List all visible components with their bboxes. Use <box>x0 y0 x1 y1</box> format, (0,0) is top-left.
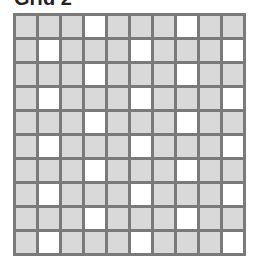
grid-cell-white <box>85 208 105 229</box>
grid-cell-shaded <box>154 112 174 133</box>
grid-cell-white <box>177 16 197 37</box>
grid-cell-white <box>85 16 105 37</box>
grid-cell-shaded <box>200 16 220 37</box>
grid-cell-shaded <box>177 40 197 61</box>
grid-cell-shaded <box>62 184 82 205</box>
grid-cell-white <box>131 40 151 61</box>
grid-cell-shaded <box>131 112 151 133</box>
grid-cell-shaded <box>39 64 59 85</box>
grid-cell-shaded <box>85 88 105 109</box>
grid-cell-shaded <box>108 16 128 37</box>
grid-cell-shaded <box>200 160 220 181</box>
grid-cell-white <box>177 112 197 133</box>
grid-cell-shaded <box>223 16 243 37</box>
grid-cell-shaded <box>39 112 59 133</box>
grid-cell-shaded <box>154 184 174 205</box>
grid-cell-shaded <box>200 40 220 61</box>
grid-cell-shaded <box>223 112 243 133</box>
grid-cell-shaded <box>154 88 174 109</box>
grid-cell-shaded <box>154 16 174 37</box>
grid-cell-white <box>85 112 105 133</box>
grid-cell-shaded <box>16 40 36 61</box>
grid-cell-shaded <box>223 208 243 229</box>
grid-cell-white <box>223 232 243 253</box>
grid-cell-shaded <box>16 112 36 133</box>
grid-cell-shaded <box>177 232 197 253</box>
grid-cell-shaded <box>39 16 59 37</box>
grid-cell-shaded <box>62 40 82 61</box>
grid-cell-shaded <box>62 88 82 109</box>
grid-cell-shaded <box>131 16 151 37</box>
grid-cell-shaded <box>16 184 36 205</box>
grid-title: Grid 2 <box>14 0 72 10</box>
grid-cell-shaded <box>200 184 220 205</box>
grid-cell-shaded <box>62 64 82 85</box>
grid-cell-shaded <box>131 208 151 229</box>
grid-cell-shaded <box>108 184 128 205</box>
grid-cell-shaded <box>16 88 36 109</box>
grid-cell-shaded <box>154 64 174 85</box>
grid-cell-shaded <box>131 160 151 181</box>
grid-cell-white <box>223 88 243 109</box>
grid-cell-shaded <box>85 40 105 61</box>
grid-cell-shaded <box>108 208 128 229</box>
grid-cell-shaded <box>62 208 82 229</box>
grid-cell-shaded <box>177 136 197 157</box>
grid-cell-white <box>39 232 59 253</box>
grid-cell-shaded <box>223 160 243 181</box>
grid-cell-shaded <box>131 64 151 85</box>
grid-cell-white <box>223 184 243 205</box>
grid-cell-shaded <box>62 16 82 37</box>
grid-cell-shaded <box>200 64 220 85</box>
grid-cell-white <box>131 88 151 109</box>
grid-cell-shaded <box>62 136 82 157</box>
grid-cell-shaded <box>177 184 197 205</box>
grid-cell-white <box>177 208 197 229</box>
grid-cell-white <box>131 184 151 205</box>
grid-cell-shaded <box>200 136 220 157</box>
grid-cell-shaded <box>108 64 128 85</box>
grid-cell-shaded <box>108 112 128 133</box>
grid-cell-white <box>85 64 105 85</box>
grid-cell-shaded <box>154 40 174 61</box>
grid <box>13 13 246 256</box>
grid-cell-white <box>223 40 243 61</box>
grid-cell-shaded <box>85 184 105 205</box>
grid-cell-shaded <box>200 88 220 109</box>
grid-cell-shaded <box>62 232 82 253</box>
grid-cell-shaded <box>39 208 59 229</box>
grid-cell-shaded <box>16 232 36 253</box>
grid-cell-shaded <box>223 64 243 85</box>
grid-cell-shaded <box>62 160 82 181</box>
grid-cell-shaded <box>16 64 36 85</box>
grid-cell-shaded <box>62 112 82 133</box>
grid-cell-shaded <box>16 16 36 37</box>
grid-cell-white <box>85 160 105 181</box>
grid-cell-shaded <box>16 136 36 157</box>
grid-cell-shaded <box>108 232 128 253</box>
grid-cell-shaded <box>39 160 59 181</box>
grid-cell-shaded <box>154 208 174 229</box>
grid-cell-white <box>131 136 151 157</box>
grid-cell-shaded <box>200 112 220 133</box>
grid-cell-shaded <box>108 136 128 157</box>
grid-cell-white <box>39 184 59 205</box>
grid-cell-white <box>223 136 243 157</box>
grid-cell-white <box>39 136 59 157</box>
grid-cell-white <box>39 40 59 61</box>
grid-cell-white <box>177 160 197 181</box>
grid-cell-white <box>177 64 197 85</box>
grid-cell-shaded <box>154 232 174 253</box>
grid-cell-shaded <box>16 208 36 229</box>
grid-cell-shaded <box>200 208 220 229</box>
grid-cell-white <box>131 232 151 253</box>
grid-cell-shaded <box>108 40 128 61</box>
grid-cell-shaded <box>16 160 36 181</box>
grid-cell-shaded <box>85 136 105 157</box>
grid-cell-shaded <box>177 88 197 109</box>
grid-cell-shaded <box>108 88 128 109</box>
grid-cell-shaded <box>154 136 174 157</box>
grid-cell-shaded <box>85 232 105 253</box>
grid-cell-shaded <box>200 232 220 253</box>
grid-cell-shaded <box>154 160 174 181</box>
